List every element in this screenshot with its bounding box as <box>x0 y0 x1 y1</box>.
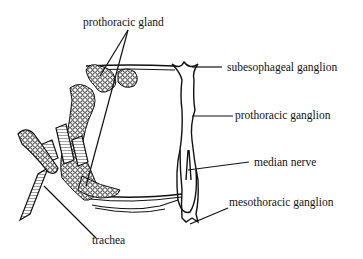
label-prothoracic-ganglion: prothoracic ganglion <box>235 110 330 122</box>
label-subesophageal-ganglion: subesophageal ganglion <box>227 62 337 74</box>
prothoracic-gland <box>61 65 138 201</box>
label-mesothoracic-ganglion: mesothoracic ganglion <box>229 197 333 209</box>
diagram-canvas <box>0 0 363 259</box>
label-prothoracic-gland: prothoracic gland <box>83 17 164 29</box>
label-trachea: trachea <box>92 235 125 247</box>
label-median-nerve: median nerve <box>254 157 316 169</box>
